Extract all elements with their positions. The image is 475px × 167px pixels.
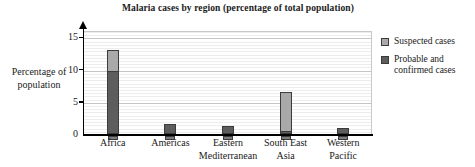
bar-column — [222, 31, 234, 134]
x-axis-label: WesternPacific — [295, 137, 391, 162]
bar-column — [164, 31, 176, 134]
chart-title: Malaria cases by region (percentage of t… — [88, 2, 388, 14]
y-tick-mark — [79, 37, 84, 38]
bar-segment-probable — [337, 128, 349, 134]
bar-segment-suspected — [107, 50, 119, 71]
bar-segment-probable — [280, 131, 292, 134]
y-tick-mark — [79, 101, 84, 102]
legend-item-label: Probable and confirmed cases — [394, 54, 475, 77]
bar-segment-suspected — [280, 92, 292, 131]
chart-legend: Suspected casesProbable and confirmed ca… — [381, 36, 475, 83]
x-axis-label-line2: Pacific — [295, 150, 391, 163]
legend-swatch-icon — [381, 56, 389, 64]
bar-segment-probable — [222, 126, 234, 134]
y-tick-mark — [79, 69, 84, 70]
y-tick-label: 10 — [56, 65, 78, 75]
bar-segment-probable — [107, 71, 119, 134]
y-tick-label: 5 — [56, 97, 78, 107]
malaria-bar-chart: Malaria cases by region (percentage of t… — [0, 0, 475, 167]
legend-item[interactable]: Suspected cases — [381, 36, 475, 48]
y-axis-line — [83, 28, 84, 135]
y-tick-label: 15 — [56, 32, 78, 42]
y-axis-title-line2: population — [2, 79, 76, 92]
bar-column — [280, 31, 292, 134]
legend-swatch-icon — [381, 38, 389, 46]
bar-segment-probable — [164, 124, 176, 134]
legend-item[interactable]: Probable and confirmed cases — [381, 54, 475, 77]
legend-item-label: Suspected cases — [394, 36, 455, 48]
bar-column — [107, 31, 119, 134]
bar-column — [337, 31, 349, 134]
x-axis-label-line1: Western — [295, 137, 391, 150]
